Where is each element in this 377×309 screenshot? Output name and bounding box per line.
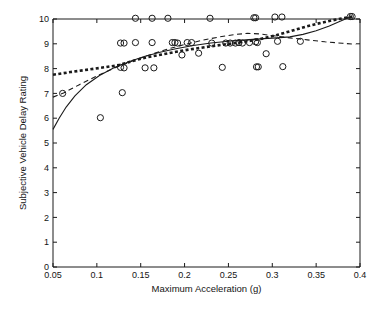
fit-curve-dotted [53, 17, 353, 75]
x-tick-label: 0.35 [307, 270, 325, 280]
x-tick-label: 0.2 [178, 270, 191, 280]
data-point [142, 65, 148, 71]
y-tick-label: 6 [44, 113, 49, 123]
y-tick-label: 4 [44, 163, 49, 173]
data-point [179, 52, 185, 58]
y-tick-label: 3 [44, 188, 49, 198]
fit-curve-solid [53, 17, 351, 130]
axes-box [53, 19, 360, 267]
y-tick-label: 9 [44, 39, 49, 49]
y-axis-title: Subjective Vehicle Delay Rating [17, 76, 28, 210]
data-point [119, 90, 125, 96]
y-tick-label: 0 [44, 262, 49, 272]
x-axis-tick-labels: 0.050.10.150.20.250.30.350.4 [44, 270, 366, 280]
y-axis-tick-labels: 012345678910 [39, 14, 49, 272]
x-axis-title: Maximum Acceleration (g) [152, 283, 262, 294]
y-tick-label: 10 [39, 14, 49, 24]
data-point [132, 39, 138, 45]
x-axis-ticks [53, 19, 360, 267]
x-tick-label: 0.1 [91, 270, 104, 280]
y-tick-label: 7 [44, 89, 49, 99]
data-point [149, 15, 155, 21]
data-point [196, 50, 202, 56]
scatter-plot-canvas: 0.050.10.150.20.250.30.350.4 01234567891… [0, 0, 377, 309]
x-tick-label: 0.3 [266, 270, 279, 280]
data-point [165, 15, 171, 21]
data-point [263, 51, 269, 57]
fit-curve-dashed [53, 33, 356, 97]
y-tick-label: 5 [44, 138, 49, 148]
y-axis-ticks [53, 19, 360, 267]
data-point [97, 115, 103, 121]
data-point [280, 64, 286, 70]
y-tick-label: 2 [44, 213, 49, 223]
data-point [274, 38, 280, 44]
y-tick-label: 8 [44, 64, 49, 74]
plot-frame [53, 19, 360, 267]
chart-figure: 0.050.10.150.20.250.30.350.4 01234567891… [0, 0, 377, 309]
x-tick-label: 0.15 [132, 270, 150, 280]
data-point [149, 39, 155, 45]
data-point [151, 65, 157, 71]
data-point [207, 15, 213, 21]
data-point [219, 64, 225, 70]
x-tick-label: 0.25 [220, 270, 238, 280]
fit-curves [53, 17, 356, 130]
y-tick-label: 1 [44, 237, 49, 247]
x-tick-label: 0.4 [354, 270, 367, 280]
data-point [132, 15, 138, 21]
